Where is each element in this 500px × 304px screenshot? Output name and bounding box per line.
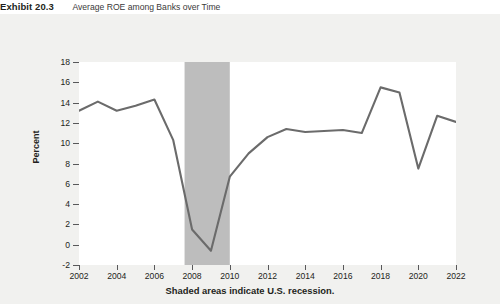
- x-tick-mark: [343, 265, 344, 270]
- x-tick-label: 2010: [210, 271, 250, 281]
- x-tick-mark: [268, 265, 269, 270]
- x-tick-label-wrap: 2022: [436, 271, 476, 283]
- x-tick-label: 2004: [97, 271, 137, 281]
- x-tick-mark: [418, 265, 419, 270]
- x-tick-label: 2006: [134, 271, 174, 281]
- roe-series-line: [79, 87, 456, 250]
- x-tick-label-wrap: 2020: [398, 271, 438, 283]
- y-tick-label: 8: [49, 159, 70, 169]
- x-tick-label-wrap: 2004: [97, 271, 137, 283]
- recession-shaded-band: [185, 62, 230, 265]
- y-tick-label: 4: [49, 199, 70, 209]
- y-tick-label: 14: [49, 98, 70, 108]
- x-tick-label: 2016: [323, 271, 363, 281]
- x-tick-mark: [79, 265, 80, 270]
- exhibit-caption: Average ROE among Banks over Time: [72, 2, 220, 12]
- x-tick-label: 2008: [172, 271, 212, 281]
- x-tick-mark: [305, 265, 306, 270]
- x-tick-label: 2012: [248, 271, 288, 281]
- x-tick-mark: [154, 265, 155, 270]
- chart-panel: Percent 181614121086420-2 20022004200620…: [0, 14, 500, 304]
- x-tick-label-wrap: 2008: [172, 271, 212, 283]
- x-tick-label-wrap: 2016: [323, 271, 363, 283]
- x-tick-mark: [117, 265, 118, 270]
- y-tick-label: 16: [49, 77, 70, 87]
- y-tick-label: -2: [49, 260, 70, 270]
- x-tick-mark: [230, 265, 231, 270]
- x-tick-mark: [192, 265, 193, 270]
- series-plot: [79, 62, 456, 265]
- x-tick-label-wrap: 2006: [134, 271, 174, 283]
- y-tick-label: 6: [49, 179, 70, 189]
- y-tick-label: 18: [49, 57, 70, 67]
- figure-root: Exhibit 20.3 Average ROE among Banks ove…: [0, 0, 500, 304]
- x-tick-label-wrap: 2012: [248, 271, 288, 283]
- x-tick-label: 2002: [59, 271, 99, 281]
- recession-note: Shaded areas indicate U.S. recession.: [0, 285, 500, 296]
- y-tick-label: 2: [49, 219, 70, 229]
- x-tick-mark: [456, 265, 457, 270]
- y-tick-label: 10: [49, 138, 70, 148]
- x-tick-mark: [381, 265, 382, 270]
- x-tick-label-wrap: 2018: [361, 271, 401, 283]
- x-tick-label: 2022: [436, 271, 476, 281]
- x-tick-label-wrap: 2010: [210, 271, 250, 283]
- x-tick-label-wrap: 2014: [285, 271, 325, 283]
- y-tick-label: 12: [49, 118, 70, 128]
- x-tick-label-wrap: 2002: [59, 271, 99, 283]
- exhibit-title: Exhibit 20.3 Average ROE among Banks ove…: [0, 0, 500, 12]
- x-tick-label: 2018: [361, 271, 401, 281]
- y-axis-title: Percent: [31, 107, 41, 187]
- y-tick-label: 0: [49, 240, 70, 250]
- exhibit-number: Exhibit 20.3: [0, 1, 54, 12]
- x-tick-label: 2020: [398, 271, 438, 281]
- plot-area: [79, 62, 456, 265]
- x-tick-label: 2014: [285, 271, 325, 281]
